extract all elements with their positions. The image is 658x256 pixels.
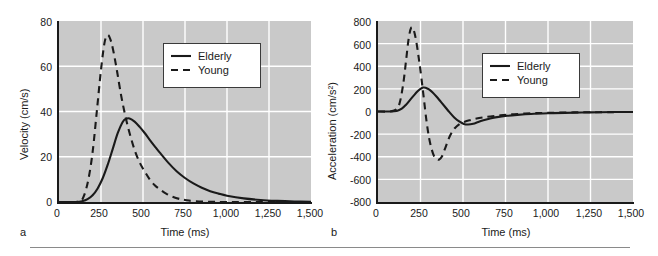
panel-a-legend-row-elderly: Elderly [170,49,252,63]
panel-b-ytick-0: 0 [329,107,371,118]
panel-b-legend-row-elderly: Elderly [489,59,571,73]
panel-b-ytick-200: 200 [329,85,371,96]
panel-b-ytick-600: 600 [329,40,371,51]
panel-a-xtick-1250: 1,250 [248,208,288,219]
panel-a-xtick-0: 0 [41,208,73,219]
panel-b-x-axis-line [376,202,634,204]
panel-b-legend-label-elderly: Elderly [517,60,551,72]
panel-a-x-axis-title: Time (ms) [110,226,260,238]
panel-b-ytick-neg800: -800 [329,197,371,208]
panel-a: Velocity (cm/s) 80 60 40 20 0 [0,0,329,256]
panel-a-ytick-0: 0 [18,197,52,208]
panel-a-xtick-500: 500 [125,208,157,219]
solid-line-icon [170,50,192,62]
panel-b-xtick-0: 0 [360,208,392,219]
panel-a-xtick-250: 250 [83,208,115,219]
panel-b-x-axis-title: Time (ms) [431,226,581,238]
panel-b-legend: Elderly Young [482,53,580,98]
panel-a-xtick-1500: 1,500 [290,208,330,219]
panel-a-ytick-20: 20 [18,152,52,163]
panel-a-legend: Elderly Young [163,43,261,88]
panel-a-legend-label-young: Young [198,64,229,76]
panel-b-xtick-500: 500 [445,208,477,219]
panel-b-xtick-750: 750 [488,208,520,219]
panel-a-ytick-80: 80 [18,17,52,28]
panel-b-legend-label-young: Young [517,74,548,86]
panel-b-xtick-1250: 1,250 [569,208,609,219]
panel-a-ytick-60: 60 [18,62,52,73]
panel-b-plot-area [378,21,633,202]
panel-a-legend-row-young: Young [170,63,252,77]
panel-a-y-axis-title: Velocity (cm/s) [18,88,30,160]
dashed-line-icon [170,64,192,76]
panel-b-letter: b [331,226,337,238]
panel-b-xtick-1000: 1,000 [526,208,566,219]
panel-b-legend-row-young: Young [489,73,571,87]
panel-b-ytick-400: 400 [329,62,371,73]
panel-a-xtick-750: 750 [167,208,199,219]
panel-b-ytick-neg400: -400 [329,152,371,163]
dashed-line-icon [489,74,511,86]
panel-b-xtick-250: 250 [403,208,435,219]
panel-a-xtick-1000: 1,000 [206,208,246,219]
panel-a-ytick-40: 40 [18,107,52,118]
panel-b-ytick-neg600: -600 [329,175,371,186]
panel-b: Acceleration (cm/s²) 800 600 400 200 0 -… [329,0,658,256]
panel-b-ytick-neg200: -200 [329,130,371,141]
panel-a-x-axis-line [57,202,312,204]
panel-b-xtick-1500: 1,500 [611,208,651,219]
panel-a-letter: a [20,226,26,238]
panel-b-plot-svg [378,21,633,202]
panel-b-ytick-800: 800 [329,17,371,28]
figure-container: Velocity (cm/s) 80 60 40 20 0 [0,0,658,256]
solid-line-icon [489,60,511,72]
panel-a-legend-label-elderly: Elderly [198,50,232,62]
bottom-divider [30,247,630,248]
